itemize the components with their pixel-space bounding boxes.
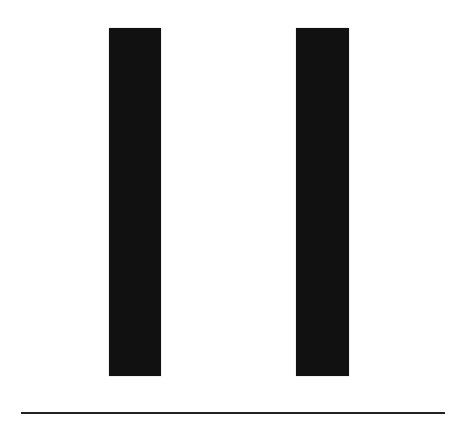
right-bar bbox=[296, 28, 349, 376]
left-bar bbox=[109, 28, 161, 376]
illustration-canvas bbox=[0, 0, 469, 439]
baseline-divider bbox=[21, 412, 445, 414]
